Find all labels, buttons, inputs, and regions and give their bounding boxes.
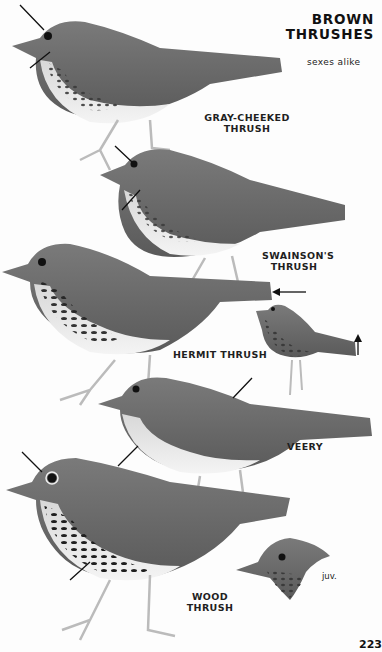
field-guide-page: BROWN THRUSHES sexes alike GRAY-CHEEKED … (0, 0, 382, 652)
label-juvenile: juv. (322, 571, 337, 581)
label-line: WOOD THRUSH (168, 591, 252, 613)
label-wood-thrush: WOOD THRUSH (168, 591, 252, 613)
label-line: THRUSH (197, 123, 297, 134)
plate-subtitle: sexes alike (307, 57, 361, 67)
page-number: 223 (359, 638, 382, 651)
gray-cheeked-thrush-figure (12, 5, 282, 170)
label-line: VEERY (280, 441, 330, 452)
label-veery: VEERY (280, 441, 330, 452)
small-hermit-thrush-figure (256, 305, 362, 395)
label-line: THRUSH (262, 261, 326, 272)
bird-illustrations (0, 0, 382, 652)
title-line-2: THRUSHES (286, 27, 374, 42)
label-line: GRAY-CHEEKED (197, 112, 297, 123)
label-line: SWAINSON'S (262, 250, 326, 261)
label-swainsons-thrush: SWAINSON'S THRUSH (262, 250, 326, 272)
label-hermit-thrush: HERMIT THRUSH (172, 349, 268, 360)
plate-title: BROWN THRUSHES (286, 12, 374, 42)
label-line: HERMIT THRUSH (172, 349, 268, 360)
title-line-1: BROWN (286, 12, 374, 27)
label-gray-cheeked-thrush: GRAY-CHEEKED THRUSH (197, 112, 297, 134)
